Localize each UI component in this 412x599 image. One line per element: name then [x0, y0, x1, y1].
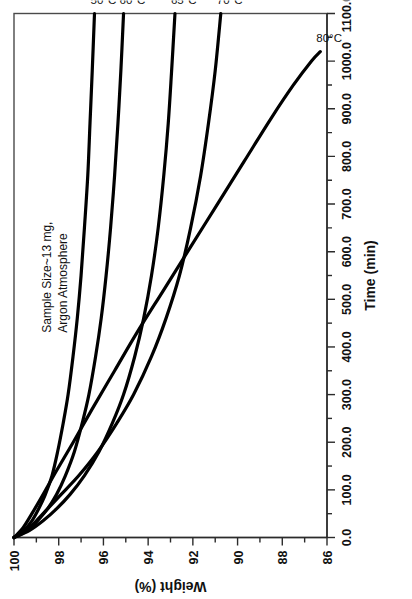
series-label-70: 70°C	[217, 0, 243, 5]
y-axis-tick-label: 86	[321, 550, 335, 564]
x-axis-tick-label: 0.0	[340, 528, 354, 545]
tga-figure: 0.0100.0200.0300.0400.0500.0600.0700.080…	[0, 0, 412, 599]
x-axis-group: 0.0100.0200.0300.0400.0500.0600.0700.080…	[327, 0, 354, 546]
x-axis-title: Time (min)	[362, 240, 378, 311]
chart-screenshot: 0.0100.0200.0300.0400.0500.0600.0700.080…	[0, 0, 412, 599]
x-axis-tick-label: 1000.0	[340, 41, 354, 79]
x-axis-tick-label: 300.0	[340, 378, 354, 409]
y-axis-tick-label: 100	[8, 550, 22, 571]
x-axis-tick-label: 100.0	[340, 474, 354, 505]
rotated-figure: 0.0100.0200.0300.0400.0500.0600.0700.080…	[0, 0, 412, 599]
y-axis-tick-label: 90	[232, 550, 246, 564]
annotation-line-2: Argon Atmosphere	[56, 232, 70, 332]
y-axis-tick-label: 96	[97, 550, 111, 564]
y-axis-tick-label: 92	[187, 550, 201, 564]
x-axis-tick-label: 800.0	[340, 140, 354, 171]
x-axis-tick-label: 600.0	[340, 235, 354, 266]
y-axis-tick-label: 88	[276, 550, 290, 564]
x-axis-tick-label: 1100.0	[340, 0, 354, 32]
series-label-65: 65°C	[171, 0, 197, 5]
series-label-80: 80°C	[316, 31, 342, 43]
y-axis-title: Weight (%)	[134, 578, 206, 594]
tga-plot: 0.0100.0200.0300.0400.0500.0600.0700.080…	[0, 0, 412, 599]
x-axis-tick-label: 700.0	[340, 188, 354, 219]
x-axis-tick-label: 900.0	[340, 93, 354, 124]
series-curve-50	[14, 13, 94, 537]
y-axis-group: 10098969492908886	[8, 537, 335, 571]
annotation-line-1: Sample Size~13 mg,	[40, 221, 54, 332]
x-axis-tick-label: 200.0	[340, 426, 354, 457]
y-axis-tick-label: 94	[142, 550, 156, 564]
series-label-60: 60°C	[120, 0, 146, 5]
annotation-group: Sample Size~13 mg,Argon Atmosphere	[40, 221, 70, 332]
series-label-50: 50°C	[90, 0, 116, 5]
series-labels-group: 50°C60°C65°C70°C80°C	[90, 0, 342, 43]
y-axis-tick-label: 98	[53, 550, 67, 564]
x-axis-tick-label: 400.0	[340, 331, 354, 362]
x-axis-tick-label: 500.0	[340, 283, 354, 314]
